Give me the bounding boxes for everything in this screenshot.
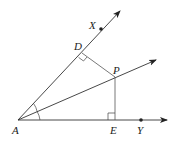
angle-bisector-diagram: A X D P E Y	[0, 0, 176, 145]
point-Y-dot	[139, 118, 143, 122]
label-A: A	[11, 124, 19, 136]
label-Y: Y	[137, 124, 145, 136]
ray-AP	[18, 60, 156, 120]
segment-DP	[82, 53, 115, 77]
angle-arc-XAP	[34, 103, 38, 111]
right-angle-marker-D	[79, 57, 87, 61]
label-P: P	[112, 64, 120, 76]
point-X-dot	[99, 27, 103, 31]
label-X: X	[88, 19, 97, 31]
label-E: E	[109, 124, 117, 136]
label-D: D	[73, 40, 82, 52]
right-angle-marker-E	[108, 113, 115, 120]
angle-arc-PAY	[37, 112, 40, 120]
